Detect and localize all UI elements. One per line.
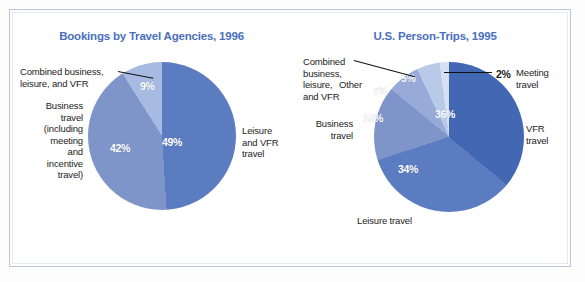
left-label-business-line4: meeting: [17, 135, 83, 147]
right-label-business-line1: Business: [297, 118, 353, 130]
left-label-business-line2: travel: [17, 112, 83, 124]
right-label-business: Business travel: [297, 118, 353, 141]
left-label-combined: Combined business, leisure, and VFR: [20, 66, 124, 89]
right-label-vfr-line2: travel: [526, 135, 572, 147]
right-chart-panel: U.S. Person-Trips, 1995 36% 34% 16% 7% 5…: [294, 0, 576, 282]
left-label-combined-line2: leisure, and VFR: [20, 78, 124, 90]
right-slice-value-business: 16%: [363, 112, 383, 124]
left-label-leisure-line2: and VFR: [242, 137, 294, 149]
right-label-vfr-line1: VFR: [526, 123, 572, 135]
right-label-combined-line2: business,: [303, 68, 359, 80]
left-label-business-line1: Business: [17, 100, 83, 112]
right-label-other: Other: [339, 79, 373, 91]
left-label-business-line5: and: [17, 146, 83, 158]
left-chart-panel: Bookings by Travel Agencies, 1996 49% 42…: [9, 0, 294, 282]
right-slice-value-other: 7%: [373, 85, 388, 97]
right-slice-value-vfr: 36%: [435, 108, 455, 120]
left-label-leisure-line3: travel: [242, 148, 294, 160]
right-label-meeting-line2: travel: [516, 79, 572, 91]
right-slice-value-leisure: 34%: [398, 163, 418, 175]
right-label-business-line2: travel: [297, 130, 353, 142]
right-label-combined-line4: and VFR: [303, 91, 359, 103]
left-label-business-line6: incentive: [17, 158, 83, 170]
right-leader-meeting: [444, 72, 492, 73]
left-label-leisure: Leisure and VFR travel: [242, 125, 294, 160]
right-chart-title: U.S. Person-Trips, 1995: [294, 30, 576, 42]
right-pie-chart: [374, 62, 524, 212]
figure-page: Bookings by Travel Agencies, 1996 49% 42…: [0, 0, 585, 282]
right-label-meeting: Meeting travel: [516, 67, 572, 90]
left-chart-title: Bookings by Travel Agencies, 1996: [9, 30, 294, 42]
left-label-business-line7: travel): [17, 169, 83, 181]
left-slice-value-combined: 9%: [140, 80, 155, 92]
left-label-leisure-line1: Leisure: [242, 125, 294, 137]
right-leader-combined: [354, 60, 415, 77]
left-slice-value-leisure: 49%: [162, 136, 182, 148]
left-label-business-line3: (including: [17, 123, 83, 135]
left-slice-value-business: 42%: [110, 142, 130, 154]
right-label-meeting-line1: Meeting: [516, 67, 572, 79]
right-label-vfr: VFR travel: [526, 123, 572, 146]
right-label-leisure: Leisure travel: [357, 215, 447, 227]
right-label-combined-line1: Combined: [303, 56, 359, 68]
left-label-business: Business travel (including meeting and i…: [17, 100, 83, 181]
left-label-combined-line1: Combined business,: [20, 66, 124, 78]
right-slice-value-meeting: 2%: [496, 68, 511, 80]
